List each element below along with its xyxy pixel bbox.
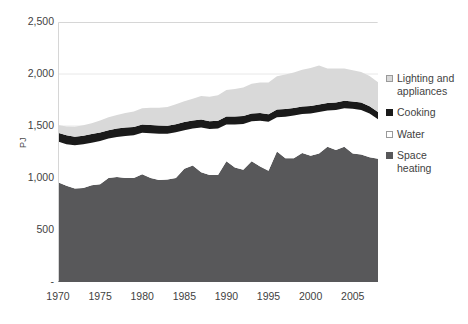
x-axis-tick-label: 1975 [80,290,120,302]
plot-area [58,22,378,282]
y-axis-tick-label: - [2,276,54,287]
legend-item[interactable]: Cooking [386,106,466,119]
y-axis-tick-label: 500 [2,224,54,235]
stacked-area-svg [58,22,378,282]
legend-item[interactable]: Lighting and appliances [386,72,466,97]
legend-item-label: Cooking [397,106,436,119]
x-axis-tick-label: 1995 [249,290,289,302]
chart-container: PJ 2,5002,0001,5001,000500- 197019751980… [0,0,468,324]
x-axis-tick-label: 1970 [38,290,78,302]
legend-swatch-space-heating [386,152,393,159]
y-axis-tick-label: 2,000 [2,68,54,79]
legend-item[interactable]: Space heating [386,149,466,174]
y-axis-tick-labels: 2,5002,0001,5001,000500- [0,0,54,324]
x-axis-tick-label: 1985 [164,290,204,302]
legend-item-label: Water [397,128,425,141]
y-axis-tick-label: 2,500 [2,16,54,27]
chart-legend: Lighting and appliancesCookingWaterSpace… [386,72,466,183]
y-axis-tick-label: 1,500 [2,120,54,131]
y-axis-tick-label: 1,000 [2,172,54,183]
legend-item[interactable]: Water [386,128,466,141]
x-axis-tick-label: 1990 [206,290,246,302]
x-axis-tick-label: 2005 [333,290,373,302]
x-axis-tick-label: 1980 [122,290,162,302]
legend-swatch-cooking [386,109,393,116]
legend-swatch-lighting [386,75,393,82]
legend-item-label: Space heating [397,149,431,174]
x-axis-tick-label: 2000 [291,290,331,302]
legend-swatch-water [386,131,393,138]
legend-item-label: Lighting and appliances [397,72,454,97]
